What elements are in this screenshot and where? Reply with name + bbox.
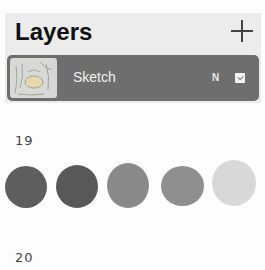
color-swatch <box>56 165 98 208</box>
color-swatch <box>107 163 149 208</box>
layer-name: Sketch <box>73 69 116 85</box>
annotation-label: 20 <box>15 250 34 265</box>
annotation-label: 19 <box>15 133 34 148</box>
panel-title: Layers <box>15 18 92 46</box>
layer-row-sketch[interactable]: Sketch N <box>7 55 259 101</box>
plus-icon[interactable] <box>231 20 253 42</box>
color-swatch <box>161 166 204 206</box>
color-swatch <box>5 166 47 208</box>
color-swatch <box>212 160 256 206</box>
visibility-checkbox[interactable] <box>235 73 245 83</box>
layer-thumbnail <box>10 58 57 98</box>
blend-mode-button[interactable]: N <box>212 72 219 83</box>
